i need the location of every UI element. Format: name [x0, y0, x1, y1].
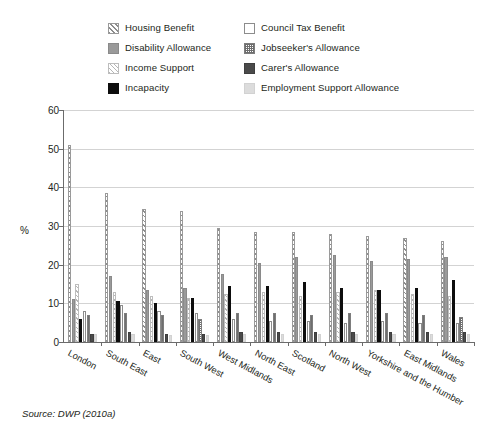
bar-east-income-support	[150, 296, 153, 342]
bar-group-london	[64, 110, 101, 342]
legend-item-disability-allowance: Disability Allowance	[108, 38, 244, 58]
bar-group-yorkshire-and-the-humber	[362, 110, 399, 342]
bar-east-midlands-disability-allowance	[407, 259, 410, 342]
bar-london-carer-s-allowance	[90, 334, 93, 342]
bar-east-carer-s-allowance	[165, 334, 168, 342]
legend-item-carer-s-allowance: Carer's Allowance	[244, 58, 438, 78]
bar-group-south-east	[101, 110, 138, 342]
chart-legend: Housing BenefitCouncil Tax BenefitDisabi…	[108, 18, 438, 100]
legend-swatch-council-tax-benefit-icon	[244, 23, 255, 34]
legend-label: Disability Allowance	[125, 43, 211, 53]
legend-item-housing-benefit: Housing Benefit	[108, 18, 244, 38]
x-tick-mark	[139, 342, 140, 346]
bar-north-east-income-support	[262, 292, 265, 342]
bar-east-employment-support-allowance	[169, 335, 172, 342]
bar-yorkshire-and-the-humber-incapacity	[377, 290, 380, 342]
y-tick-label: 10	[33, 298, 59, 309]
y-tick-mark	[59, 303, 64, 304]
bar-wales-disability-allowance	[444, 257, 447, 342]
y-tick-label: 40	[33, 182, 59, 193]
bar-group-wales	[437, 110, 474, 342]
y-axis-label: %	[20, 225, 29, 236]
legend-label: Income Support	[125, 63, 194, 73]
bar-north-west-jobseeker-s-allowance	[348, 313, 351, 342]
y-tick-mark	[59, 265, 64, 266]
bar-north-east-employment-support-allowance	[281, 334, 284, 343]
bar-south-west-council-tax-benefit	[195, 313, 198, 342]
source-caption: Source: DWP (2010a)	[22, 408, 116, 419]
bar-wales-incapacity	[452, 280, 455, 342]
bar-group-east-midlands	[399, 110, 436, 342]
bar-south-west-carer-s-allowance	[202, 334, 205, 342]
legend-item-income-support: Income Support	[108, 58, 244, 78]
bar-yorkshire-and-the-humber-jobseeker-s-allowance	[385, 313, 388, 342]
x-tick-mark	[474, 342, 475, 346]
x-label-london: London	[67, 348, 99, 371]
bar-south-east-employment-support-allowance	[131, 334, 134, 342]
bar-west-midlands-housing-benefit	[217, 228, 220, 342]
bar-south-east-disability-allowance	[109, 276, 112, 342]
bar-group-east	[139, 110, 176, 342]
legend-swatch-housing-benefit-icon	[108, 23, 119, 34]
bar-east-housing-benefit	[142, 209, 145, 342]
bar-west-midlands-carer-s-allowance	[239, 332, 242, 342]
y-tick-mark	[59, 110, 64, 111]
bar-scotland-incapacity	[303, 282, 306, 342]
bar-group-north-east	[250, 110, 287, 342]
bar-scotland-disability-allowance	[295, 257, 298, 342]
bar-london-employment-support-allowance	[94, 334, 97, 342]
x-label-east: East	[141, 348, 162, 366]
bar-east-midlands-council-tax-benefit	[418, 323, 421, 342]
bar-north-west-disability-allowance	[333, 255, 336, 342]
bar-south-west-employment-support-allowance	[206, 335, 209, 342]
bar-scotland-carer-s-allowance	[314, 332, 317, 342]
y-tick-mark	[59, 226, 64, 227]
x-tick-mark	[250, 342, 251, 346]
bar-north-east-jobseeker-s-allowance	[273, 313, 276, 342]
bar-east-midlands-jobseeker-s-allowance	[422, 315, 425, 342]
y-tick-mark	[59, 342, 64, 343]
bar-east-midlands-employment-support-allowance	[430, 334, 433, 342]
bar-south-east-income-support	[113, 292, 116, 342]
bar-london-council-tax-benefit	[83, 311, 86, 342]
bar-east-incapacity	[154, 303, 157, 342]
bar-yorkshire-and-the-humber-housing-benefit	[366, 236, 369, 342]
bar-west-midlands-income-support	[224, 294, 227, 342]
bar-wales-council-tax-benefit	[456, 323, 459, 342]
bar-west-midlands-employment-support-allowance	[243, 334, 246, 342]
bar-south-east-housing-benefit	[105, 193, 108, 342]
bar-east-midlands-incapacity	[415, 288, 418, 342]
bar-west-midlands-council-tax-benefit	[232, 319, 235, 342]
legend-item-employment-support-allowance: Employment Support Allowance	[244, 78, 438, 98]
bar-east-midlands-carer-s-allowance	[426, 332, 429, 342]
bar-london-incapacity	[79, 319, 82, 342]
bar-yorkshire-and-the-humber-income-support	[374, 290, 377, 342]
bar-north-east-carer-s-allowance	[277, 332, 280, 342]
legend-item-council-tax-benefit: Council Tax Benefit	[244, 18, 438, 38]
x-tick-mark	[325, 342, 326, 346]
bar-london-income-support	[75, 284, 78, 342]
legend-swatch-carer-s-allowance-icon	[244, 63, 255, 74]
bar-scotland-housing-benefit	[292, 232, 295, 342]
bar-wales-housing-benefit	[441, 241, 444, 342]
x-axis-labels: LondonSouth EastEastSouth WestWest Midla…	[0, 344, 491, 402]
bar-east-council-tax-benefit	[157, 311, 160, 342]
legend-swatch-disability-allowance-icon	[108, 43, 119, 54]
bar-east-midlands-housing-benefit	[403, 238, 406, 342]
bar-scotland-council-tax-benefit	[307, 321, 310, 342]
bar-yorkshire-and-the-humber-carer-s-allowance	[389, 332, 392, 342]
bar-west-midlands-disability-allowance	[221, 274, 224, 342]
x-axis-line	[63, 342, 475, 343]
bar-south-west-incapacity	[191, 298, 194, 342]
bar-south-east-council-tax-benefit	[120, 305, 123, 342]
legend-label: Council Tax Benefit	[261, 23, 345, 33]
bar-wales-employment-support-allowance	[467, 334, 470, 343]
x-label-wales: Wales	[439, 348, 466, 369]
bar-north-east-council-tax-benefit	[269, 321, 272, 342]
bar-east-midlands-income-support	[411, 294, 414, 342]
legend-label: Housing Benefit	[125, 23, 194, 33]
bar-yorkshire-and-the-humber-council-tax-benefit	[381, 321, 384, 342]
bar-wales-jobseeker-s-allowance	[459, 317, 462, 342]
bar-west-midlands-incapacity	[228, 286, 231, 342]
bar-london-disability-allowance	[72, 299, 75, 342]
